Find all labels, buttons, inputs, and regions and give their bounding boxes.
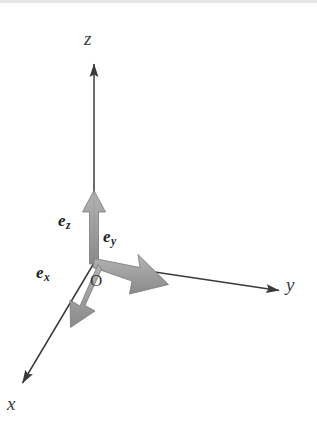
coordinate-system-figure: z y x O ez ey ex [0, 0, 317, 431]
axis-line-x [23, 263, 95, 383]
basis-vector-label-ex-subscript: x [44, 271, 50, 284]
basis-vector-label-ez-symbol: e [58, 211, 66, 230]
coordinate-system-canvas [0, 0, 317, 431]
basis-vector-arrows [70, 191, 169, 328]
axis-label-z: z [84, 29, 91, 48]
axis-label-x: x [7, 394, 15, 413]
basis-vector-label-ex-symbol: e [36, 263, 44, 282]
basis-vector-label-ey-subscript: y [111, 235, 116, 248]
axis-label-y: y [286, 275, 294, 294]
basis-vector-ey-arrow [93, 255, 169, 295]
origin-label: O [90, 272, 102, 289]
basis-vector-label-ey-symbol: e [103, 227, 111, 246]
basis-vector-label-ez-subscript: z [66, 219, 71, 232]
basis-vector-label-ex: ex [36, 264, 50, 283]
basis-vector-label-ey: ey [103, 228, 116, 247]
basis-vector-label-ez: ez [58, 212, 71, 231]
